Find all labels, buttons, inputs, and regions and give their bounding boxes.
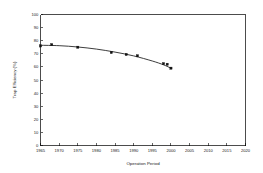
chart-svg: 0102030405060708090100 19651970197519801… (0, 0, 263, 173)
y-axis-title: Trap Efficiency (%) (12, 61, 17, 98)
x-tick-label: 1975 (73, 148, 83, 153)
x-tick-label: 1990 (129, 148, 139, 153)
x-tick-label: 1980 (92, 148, 102, 153)
x-tick-label: 2020 (241, 148, 251, 153)
data-point-marker (136, 55, 138, 57)
y-tick-label: 20 (34, 117, 39, 122)
data-point-marker (39, 45, 41, 47)
x-tick-label: 2005 (185, 148, 195, 153)
x-tick-label: 1995 (148, 148, 158, 153)
y-tick-label: 100 (31, 12, 39, 17)
data-point-marker (170, 67, 172, 69)
x-tick-label: 2010 (204, 148, 214, 153)
x-tick-label: 1985 (110, 148, 120, 153)
y-tick-label: 80 (34, 38, 39, 43)
y-tick-label: 30 (34, 104, 39, 109)
x-axis-title: Operation Period (126, 161, 160, 166)
data-point-marker (162, 62, 164, 64)
data-point-marker (51, 43, 53, 45)
y-tick-label: 60 (34, 64, 39, 69)
y-tick-label: 40 (34, 91, 39, 96)
x-tick-label: 2000 (166, 148, 176, 153)
y-tick-label: 70 (34, 51, 39, 56)
y-tick-label: 10 (34, 130, 39, 135)
chart-figure: 0102030405060708090100 19651970197519801… (0, 0, 263, 173)
data-point-marker (166, 63, 168, 65)
y-tick-label: 50 (34, 78, 39, 83)
x-tick-label: 1965 (36, 148, 46, 153)
data-point-marker (77, 46, 79, 48)
x-tick-label: 1970 (55, 148, 65, 153)
y-tick-label: 90 (34, 25, 39, 30)
data-point-marker (125, 53, 127, 55)
x-tick-label: 2015 (222, 148, 232, 153)
data-point-marker (110, 51, 112, 53)
